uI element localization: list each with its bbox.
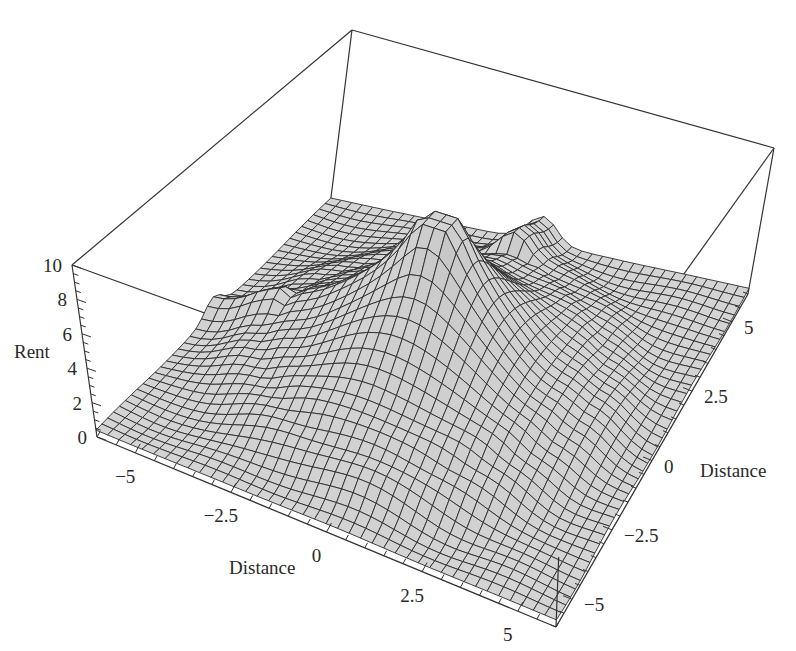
z-tick — [97, 437, 106, 440]
y-tick-label: 2.5 — [704, 386, 728, 407]
surface-mesh — [96, 198, 749, 620]
x-tick — [403, 559, 406, 564]
z-tick-label: 0 — [78, 427, 88, 448]
z-tick — [77, 299, 86, 302]
x-tick — [365, 543, 368, 548]
z-tick-label: 4 — [68, 358, 78, 379]
y-axis-title: Distance — [700, 460, 766, 481]
x-tick — [212, 480, 215, 485]
x-tick — [537, 614, 540, 619]
x-tick — [441, 575, 444, 580]
x-tick — [288, 511, 291, 516]
z-tick — [87, 368, 96, 371]
x-tick — [116, 440, 119, 445]
box-edge-back-vertical — [330, 30, 352, 205]
box-edge-top-back — [352, 30, 774, 148]
x-tick — [193, 472, 196, 477]
x-tick-label: 2.5 — [400, 585, 424, 606]
y-tick-label: −5 — [584, 594, 604, 615]
x-tick — [250, 495, 253, 500]
x-tick-label: −5 — [115, 466, 135, 487]
y-tick-label: 0 — [664, 456, 674, 477]
x-tick — [174, 464, 177, 469]
x-tick — [269, 503, 272, 508]
x-tick — [460, 582, 463, 587]
z-axis-title: Rent — [14, 341, 51, 362]
z-tick — [92, 403, 101, 406]
x-tick — [346, 535, 349, 540]
z-tick-label: 10 — [43, 255, 62, 276]
x-tick — [97, 432, 100, 437]
x-tick-label: −2.5 — [204, 505, 238, 526]
x-tick — [499, 598, 502, 603]
z-tick-label: 6 — [63, 324, 73, 345]
x-tick — [154, 456, 157, 461]
box-edge-right-vertical — [748, 148, 774, 294]
x-tick-label: 5 — [503, 624, 513, 645]
x-tick-label: 0 — [312, 545, 322, 566]
y-tick-label: 5 — [744, 317, 754, 338]
x-tick — [307, 519, 310, 524]
x-axis-title: Distance — [229, 557, 295, 578]
z-tick-label: 2 — [73, 393, 83, 414]
z-tick-label: 8 — [58, 289, 68, 310]
x-tick — [480, 590, 483, 595]
z-tick — [72, 265, 81, 268]
z-tick — [82, 334, 91, 337]
surface-plot: 0246810 −5−2.502.55 −5−2.502.55 Rent Dis… — [0, 0, 796, 651]
x-tick — [384, 551, 387, 556]
y-tick-label: −2.5 — [624, 525, 658, 546]
